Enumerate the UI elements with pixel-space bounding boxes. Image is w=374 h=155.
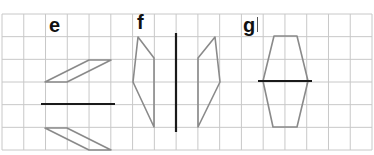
problem-label-f: f bbox=[137, 12, 144, 32]
shape-e-upper-parallelogram bbox=[45, 60, 111, 82]
problem-label-g: g bbox=[243, 15, 255, 35]
problem-label-e: e bbox=[49, 15, 60, 35]
text-cursor-mark bbox=[257, 17, 258, 32]
shape-e-lower-parallelogram-reflection bbox=[45, 128, 111, 150]
